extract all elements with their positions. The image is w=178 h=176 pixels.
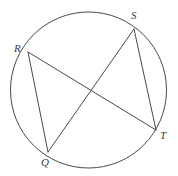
- circumscribed-circle: [11, 12, 167, 168]
- chord-r-t: [28, 52, 156, 130]
- chord-r-q: [28, 52, 48, 152]
- chord-s-t: [134, 29, 156, 130]
- vertex-label-r: R: [14, 43, 21, 54]
- chord-s-q: [48, 29, 134, 152]
- vertex-label-t: T: [160, 130, 166, 141]
- vertex-label-q: Q: [41, 157, 49, 168]
- vertex-label-s: S: [131, 10, 137, 21]
- geometry-figure: R S T Q: [0, 0, 178, 176]
- geometry-canvas: [0, 0, 178, 176]
